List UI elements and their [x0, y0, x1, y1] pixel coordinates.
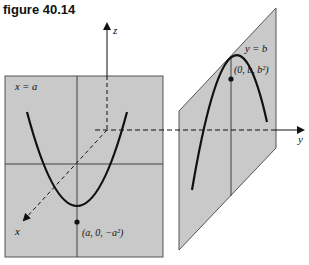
plane-label-y-equals-b: y = b [244, 43, 267, 54]
vertex-label: (a, 0, −a²) [82, 227, 124, 239]
y-axis-label: y [297, 133, 303, 145]
peak-label: (0, b, b²) [234, 64, 269, 76]
diagram-canvas: z y x x = a (a, 0, −a²) y = b (0, b, b²) [0, 0, 309, 265]
peak-point [228, 76, 233, 81]
z-axis-label: z [112, 24, 118, 36]
x-axis-label: x [14, 225, 20, 237]
vertex-point [74, 219, 79, 224]
plane-label-x-equals-a: x = a [14, 81, 37, 92]
